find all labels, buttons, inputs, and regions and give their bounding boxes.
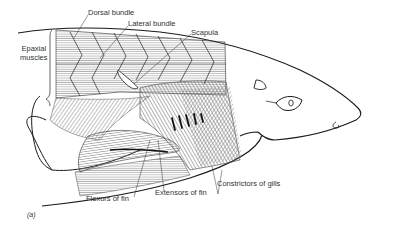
label-extensors-of-fin: Extensors of fin [155, 189, 207, 197]
label-epaxial-muscles: Epaxial muscles [20, 45, 48, 62]
label-epaxial-line2: muscles [20, 54, 48, 63]
label-scapula: Scapula [191, 29, 218, 37]
epaxial-bracket [46, 30, 52, 106]
eye-line [266, 101, 276, 103]
pupil [289, 100, 293, 106]
snout-outline [275, 108, 361, 140]
label-constrictors-of-gills: Constrictors of gills [217, 180, 280, 188]
spiracle [254, 80, 266, 90]
panel-label: (a) [27, 211, 36, 218]
label-lateral-bundle: Lateral bundle [128, 20, 176, 28]
label-dorsal-bundle: Dorsal bundle [88, 9, 134, 17]
label-flexors-of-fin: Flexors of fin [86, 195, 129, 203]
lower-body-outline [32, 96, 52, 170]
shark-musculature-figure: Dorsal bundle Lateral bundle Scapula Epa… [0, 0, 393, 227]
nostril [333, 122, 339, 128]
